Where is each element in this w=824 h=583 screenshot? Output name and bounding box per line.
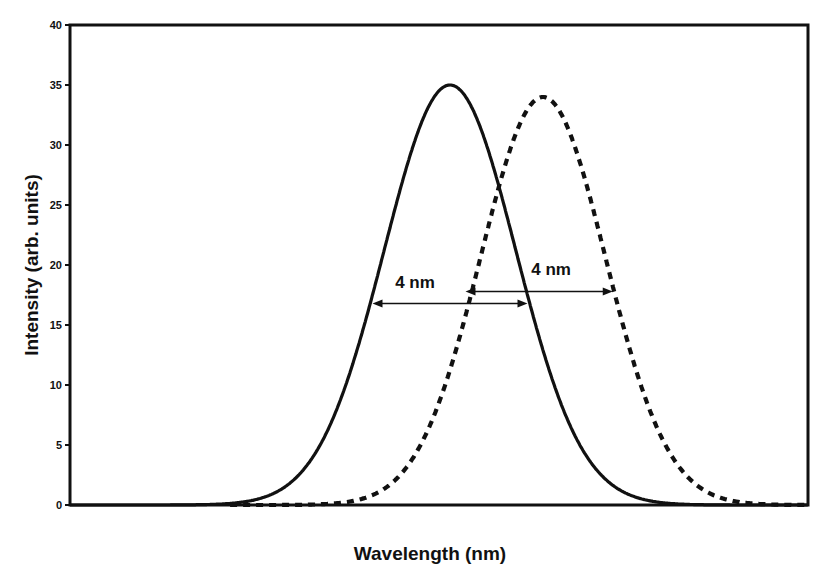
arrow-head-right-icon <box>518 299 528 307</box>
chart: 0510152025303540 4 nm4 nm Wavelength (nm… <box>0 0 824 583</box>
y-tick-label: 5 <box>56 439 62 451</box>
y-tick-label: 40 <box>50 19 62 31</box>
plot-curves <box>70 85 808 505</box>
annotations: 4 nm4 nm <box>373 260 613 307</box>
y-tick-label: 25 <box>50 199 62 211</box>
y-tick-label: 30 <box>50 139 62 151</box>
arrow-head-left-icon <box>373 299 383 307</box>
x-axis-title: Wavelength (nm) <box>354 543 506 564</box>
y-axis-ticks: 0510152025303540 <box>50 19 70 511</box>
y-tick-label: 10 <box>50 379 62 391</box>
fwhm-label: 4 nm <box>531 260 571 279</box>
y-tick-label: 0 <box>56 499 62 511</box>
y-tick-label: 35 <box>50 79 62 91</box>
y-axis-title: Intensity (arb. units) <box>21 174 42 356</box>
fwhm-label: 4 nm <box>395 273 435 292</box>
series-solid-line <box>70 85 808 505</box>
y-tick-label: 15 <box>50 319 62 331</box>
plot-frame <box>70 25 808 505</box>
y-tick-label: 20 <box>50 259 62 271</box>
